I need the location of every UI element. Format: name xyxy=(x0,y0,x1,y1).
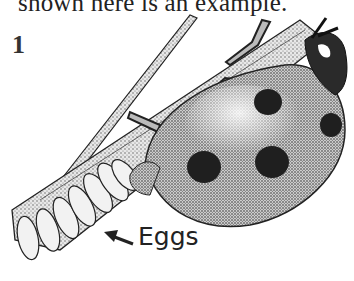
arrow-icon xyxy=(104,230,133,244)
ladybug xyxy=(130,18,347,227)
eggs-label: Eggs xyxy=(138,222,199,251)
